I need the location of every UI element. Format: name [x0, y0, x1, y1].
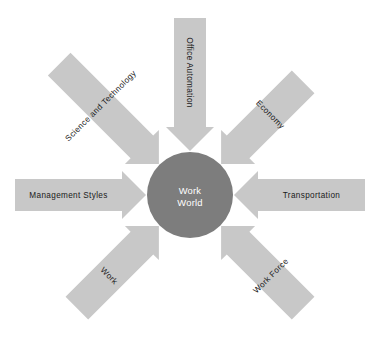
spoke-arrow-science-and-technology[interactable]: [42, 47, 176, 181]
hub-label-line-1: Work: [179, 185, 202, 196]
spoke-label-group-office-automation: Office Automation: [185, 37, 194, 108]
spoke-label-group-transportation: Transportation: [283, 191, 340, 200]
spoke-arrow-group-work-force: [204, 209, 320, 325]
spoke-arrow-group-economy: [204, 65, 320, 181]
hub-layer: Work World: [147, 152, 233, 238]
spoke-arrow-group-work: [60, 209, 176, 325]
spoke-label-office-automation: Office Automation: [185, 37, 194, 108]
spoke-office-automation[interactable]: Office Automation: [166, 18, 214, 151]
spoke-arrow-group-science-and-technology: [42, 47, 176, 181]
radial-diagram: Office AutomationEconomyTransportationWo…: [0, 0, 371, 345]
spoke-label-group-management-styles: Management Styles: [29, 191, 107, 200]
spoke-work[interactable]: Work: [60, 209, 176, 325]
spoke-management-styles[interactable]: Management Styles: [15, 171, 146, 219]
spoke-transportation[interactable]: Transportation: [234, 171, 365, 219]
spoke-work-force[interactable]: Work Force: [204, 209, 320, 325]
spoke-label-transportation: Transportation: [283, 191, 340, 200]
radial-diagram-canvas: Office AutomationEconomyTransportationWo…: [0, 0, 371, 345]
hub-label-line-2: World: [177, 197, 202, 208]
spoke-economy[interactable]: Economy: [204, 65, 320, 181]
spoke-arrow-work-force[interactable]: [204, 209, 320, 325]
spoke-science-and-technology[interactable]: Science and Technology: [42, 47, 176, 181]
spoke-arrow-work[interactable]: [60, 209, 176, 325]
spoke-label-management-styles: Management Styles: [29, 191, 107, 200]
spoke-arrow-economy[interactable]: [204, 65, 320, 181]
